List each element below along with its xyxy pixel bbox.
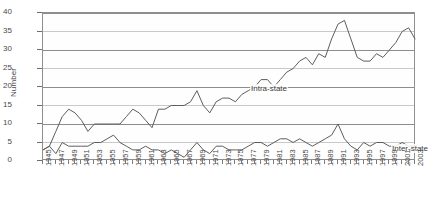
x-axis-tick-mark [369, 160, 370, 164]
x-axis-tick-mark [209, 160, 210, 164]
x-axis-tick-mark [119, 160, 120, 164]
x-axis-tick-mark [382, 160, 383, 164]
x-axis-labels: 1945194719491951195319551957195919611963… [42, 160, 415, 205]
x-axis-tick-mark [61, 160, 62, 164]
x-axis-tick-mark [202, 160, 203, 164]
x-axis-tick-mark [177, 160, 178, 164]
x-axis-tick-mark [292, 160, 293, 164]
x-axis-tick-mark [183, 160, 184, 164]
x-axis-tick-mark [408, 160, 409, 164]
x-axis-tick-mark [241, 160, 242, 164]
line-chart: Number 0510152025303540 Intra-state Inte… [0, 0, 431, 205]
x-axis-tick-mark [376, 160, 377, 164]
x-axis-tick-mark [106, 160, 107, 164]
y-axis-tick-label: 35 [0, 27, 12, 35]
x-axis-tick-mark [228, 160, 229, 164]
x-axis-tick-mark [286, 160, 287, 164]
series-lines [43, 13, 416, 161]
x-axis-tick-mark [87, 160, 88, 164]
x-axis-tick-mark [266, 160, 267, 164]
y-axis-tick-label: 20 [0, 82, 12, 90]
plot-area: Intra-state Inter-state [42, 12, 415, 160]
y-axis-tick-label: 30 [0, 45, 12, 53]
x-axis-tick-mark [254, 160, 255, 164]
x-axis-tick-label: 2003 [417, 149, 425, 166]
x-axis-tick-mark [125, 160, 126, 164]
x-axis-tick-mark [279, 160, 280, 164]
series-line-intra-state [43, 20, 415, 150]
x-axis-tick-mark [337, 160, 338, 164]
x-axis-tick-mark [164, 160, 165, 164]
x-axis-tick-mark [305, 160, 306, 164]
x-axis-tick-mark [395, 160, 396, 164]
x-axis-tick-mark [414, 160, 415, 164]
x-axis-tick-mark [74, 160, 75, 164]
x-axis-tick-mark [151, 160, 152, 164]
y-axis-tick-label: 0 [0, 156, 12, 164]
x-axis-tick-mark [100, 160, 101, 164]
x-axis-tick-mark [145, 160, 146, 164]
x-axis-tick-mark [196, 160, 197, 164]
series-label-intra-state: Intra-state [250, 84, 288, 93]
x-axis-tick-mark [190, 160, 191, 164]
x-axis-tick-mark [68, 160, 69, 164]
y-axis-tick-label: 5 [0, 138, 12, 146]
x-axis-tick-mark [132, 160, 133, 164]
x-axis-tick-mark [113, 160, 114, 164]
x-axis-tick-mark [55, 160, 56, 164]
x-axis-tick-mark [48, 160, 49, 164]
x-axis-tick-mark [299, 160, 300, 164]
x-axis-tick-mark [42, 160, 43, 164]
y-axis-tick-label: 10 [0, 119, 12, 127]
x-axis-tick-mark [273, 160, 274, 164]
x-axis-tick-mark [331, 160, 332, 164]
x-axis-tick-mark [318, 160, 319, 164]
y-axis-tick-label: 25 [0, 64, 12, 72]
x-axis-tick-mark [350, 160, 351, 164]
x-axis-tick-mark [343, 160, 344, 164]
y-axis-tick-label: 40 [0, 8, 12, 16]
y-axis-tick-label: 15 [0, 101, 12, 109]
x-axis-tick-mark [138, 160, 139, 164]
x-axis-tick-mark [260, 160, 261, 164]
x-axis-tick-mark [222, 160, 223, 164]
x-axis-tick-mark [215, 160, 216, 164]
x-axis-tick-mark [356, 160, 357, 164]
x-axis-tick-mark [363, 160, 364, 164]
